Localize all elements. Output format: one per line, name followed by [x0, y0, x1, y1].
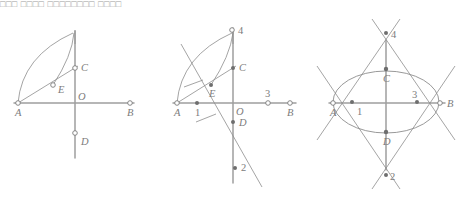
panel3-point-C-marker: [384, 67, 388, 71]
panel2-label-E: E: [208, 88, 216, 99]
panel3-label-D: D: [382, 136, 391, 147]
panel2-point-D-marker: [231, 120, 235, 124]
panel-1-step-1: A B C D E O: [14, 30, 134, 158]
panel1-label-D: D: [80, 136, 89, 147]
panel3-label-A: A: [329, 107, 337, 118]
panel3-label-1: 1: [357, 106, 362, 117]
panel3-label-C: C: [383, 73, 391, 84]
panel1-label-C: C: [81, 62, 89, 73]
panel3-point-1-marker: [350, 100, 354, 104]
panel2-label-D: D: [238, 117, 247, 128]
panel3-label-2: 2: [390, 171, 395, 182]
panel-3-step-3: A B C D 1 2 3 4: [317, 19, 455, 189]
panel2-point-4-marker: [230, 28, 235, 33]
panel1-label-A: A: [14, 107, 22, 118]
figure-canvas: Three-step geometric construction of an …: [0, 0, 469, 207]
panel1-label-O: O: [78, 91, 86, 102]
panel1-arc-radius-AC: [18, 33, 73, 103]
panel3-point-2-marker: [384, 173, 388, 177]
panel2-label-1: 1: [195, 107, 200, 118]
panel3-point-3-marker: [415, 100, 419, 104]
panel1-arc-radius-AE: [53, 33, 74, 85]
panel3-point-4-marker: [384, 31, 388, 35]
panel2-line-AC: [177, 66, 236, 103]
panel3-point-B-marker: [438, 101, 443, 106]
panel3-label-4: 4: [391, 29, 397, 40]
panel1-point-D-marker: [73, 131, 78, 136]
panel2-arc-radius-AE: [211, 33, 233, 85]
panel2-point-A-marker: [175, 101, 180, 106]
panel1-point-B-marker: [128, 101, 133, 106]
panel3-line-2-to-1: [317, 66, 400, 189]
panel3-point-D-marker: [384, 130, 388, 134]
panel3-line-2-to-3: [372, 66, 455, 189]
geometry-figure: Three-step geometric construction of an …: [0, 0, 469, 207]
panel2-point-1-marker: [195, 101, 199, 105]
panel-2-step-2: A B C D E O 1 2 3 4: [173, 25, 296, 187]
panel2-oblique-bisector-line: [181, 44, 262, 187]
panel2-label-O: O: [236, 106, 244, 117]
panel2-point-2-marker: [233, 166, 237, 170]
panel3-point-A-marker: [331, 101, 336, 106]
panel1-label-E: E: [57, 84, 65, 95]
panel2-label-A: A: [173, 107, 181, 118]
panel1-point-E-marker: [51, 83, 56, 88]
panel2-arc-radius-AC: [177, 33, 232, 103]
panel2-label-2: 2: [241, 162, 246, 173]
panel2-bisector-tick-upper: [184, 80, 203, 87]
panel3-label-B: B: [447, 98, 454, 109]
panel2-point-C-marker: [231, 66, 235, 70]
panel2-point-B-marker: [288, 101, 293, 106]
panel3-label-3: 3: [412, 89, 417, 100]
panel1-point-C-marker: [73, 66, 78, 71]
panel1-label-B: B: [127, 107, 134, 118]
panel2-label-C: C: [239, 62, 247, 73]
panel2-label-4: 4: [238, 25, 244, 36]
panel2-point-3-marker: [266, 101, 271, 106]
panel2-label-B: B: [287, 107, 294, 118]
panel1-point-A-marker: [16, 101, 21, 106]
panel2-point-E-marker: [209, 83, 213, 87]
panel2-label-3: 3: [265, 88, 270, 99]
